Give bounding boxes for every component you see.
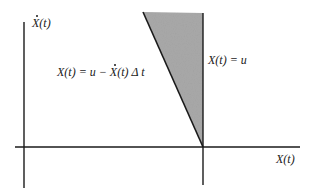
slanted-boundary-label: X(t) = u − X(t) Δ t — [57, 66, 145, 78]
y-axis-label-arg: (t) — [39, 16, 50, 30]
x-axis-label-text: X(t) — [276, 152, 295, 166]
y-axis-label-symbol: X — [32, 17, 39, 29]
vertical-label-text: X(t) = u — [208, 53, 247, 67]
x-axis-label: X(t) — [276, 153, 295, 165]
y-axis-label: X(t) — [32, 17, 51, 29]
slanted-label-lhs: X(t) = u − — [57, 65, 110, 79]
slanted-label-rhs: (t) Δ t — [117, 65, 145, 79]
vertical-boundary-label: X(t) = u — [208, 54, 247, 66]
slanted-label-symbol: X — [110, 66, 117, 78]
